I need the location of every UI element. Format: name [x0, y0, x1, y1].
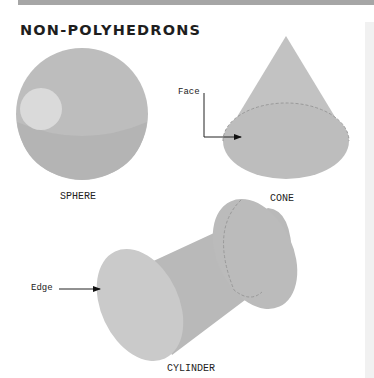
- cone-shape: [223, 36, 349, 179]
- cylinder-shape: [80, 185, 314, 375]
- sphere-caption: SPHERE: [60, 191, 96, 202]
- face-label: Face: [178, 87, 200, 97]
- sphere-shape: [16, 48, 148, 180]
- edge-label: Edge: [31, 283, 53, 293]
- cylinder-caption: CYLINDER: [167, 363, 215, 374]
- cone-caption: CONE: [270, 193, 294, 204]
- shapes-illustration: [0, 0, 374, 378]
